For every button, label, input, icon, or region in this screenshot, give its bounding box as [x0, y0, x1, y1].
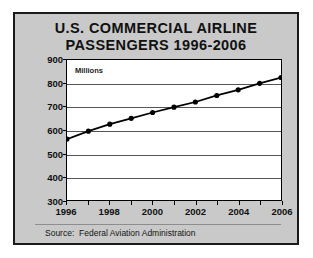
data-point-marker: [171, 105, 176, 110]
data-point-marker: [107, 122, 112, 127]
data-point-marker: [278, 75, 281, 80]
chart-title-line-1: U.S. COMMERCIAL AIRLINE: [15, 20, 297, 37]
data-point-marker: [214, 93, 219, 98]
y-axis-tick-label: 900: [35, 54, 63, 65]
data-point-marker: [129, 116, 134, 121]
chart-screenshot: U.S. COMMERCIAL AIRLINE PASSENGERS 1996-…: [0, 0, 313, 258]
unit-annotation: Millions: [75, 66, 103, 75]
plot-area: Millions: [66, 59, 282, 201]
chart-title-line-2: PASSENGERS 1996-2006: [15, 37, 297, 54]
source-divider: [35, 224, 281, 225]
x-axis-tick-label: 2006: [262, 206, 302, 217]
x-axis-tick-label: 1996: [46, 206, 86, 217]
x-axis-tick-label: 2002: [176, 206, 216, 217]
chart-card: U.S. COMMERCIAL AIRLINE PASSENGERS 1996-…: [13, 12, 299, 245]
data-point-marker: [86, 129, 91, 134]
x-axis-tick-mark: [88, 201, 89, 205]
data-point-marker: [193, 99, 198, 104]
x-axis-tick-mark: [66, 201, 67, 205]
x-axis-tick-mark: [196, 201, 197, 205]
x-axis-tick-mark: [152, 201, 153, 205]
x-axis-tick-mark: [260, 201, 261, 205]
y-axis: 900800700600500400300: [32, 59, 63, 201]
y-axis-tick-label: 400: [35, 172, 63, 183]
data-point-marker: [236, 87, 241, 92]
x-axis-tick-label: 1998: [89, 206, 129, 217]
y-axis-tick-label: 700: [35, 101, 63, 112]
y-axis-tick-label: 500: [35, 148, 63, 159]
x-axis-tick-mark: [109, 201, 110, 205]
x-axis-tick-label: 2000: [132, 206, 172, 217]
y-axis-tick-label: 300: [35, 196, 63, 207]
x-axis-tick-mark: [131, 201, 132, 205]
series-markers: [67, 75, 281, 142]
plot-inner: [67, 60, 281, 200]
data-point-marker: [257, 81, 262, 86]
data-point-marker: [67, 137, 70, 142]
y-axis-tick-label: 600: [35, 125, 63, 136]
series-line-chart: [67, 60, 281, 200]
x-axis: 199619982000200220042006: [66, 201, 282, 223]
x-axis-tick-mark: [282, 201, 283, 205]
y-axis-tick-label: 800: [35, 77, 63, 88]
x-axis-tick-mark: [217, 201, 218, 205]
x-axis-tick-mark: [239, 201, 240, 205]
x-axis-tick-label: 2004: [219, 206, 259, 217]
x-axis-tick-mark: [174, 201, 175, 205]
page-title: U.S. COMMERCIAL AIRLINE PASSENGERS 1996-…: [15, 20, 297, 54]
data-point-marker: [150, 110, 155, 115]
source-note: Source: Federal Aviation Administration: [45, 228, 196, 238]
